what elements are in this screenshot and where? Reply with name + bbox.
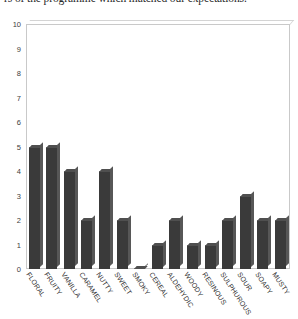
bar-musty xyxy=(275,220,286,269)
y-axis-tick-label: 3 xyxy=(17,191,21,200)
x-axis-tick-label: SOUR xyxy=(236,271,253,292)
caption-text: rs of the programme which matched our ex… xyxy=(4,0,298,4)
bar-vanilla xyxy=(64,171,75,269)
y-axis-tick-label: 4 xyxy=(17,167,21,176)
bar-resinous xyxy=(205,245,216,270)
bar-woody xyxy=(187,245,198,270)
y-axis-tick-label: 7 xyxy=(17,93,21,102)
bar-floral xyxy=(29,147,40,270)
y-axis-tick-label: 1 xyxy=(17,240,21,249)
y-axis-tick-label: 2 xyxy=(17,216,21,225)
y-axis-tick-label: 5 xyxy=(17,142,21,151)
x-axis-tick-label: MUSTY xyxy=(272,271,292,296)
bar-sour xyxy=(240,196,251,270)
x-axis-tick-label: NUTTY xyxy=(96,271,115,295)
bar-sulphurous xyxy=(222,220,233,269)
y-axis-tick-label: 6 xyxy=(17,118,21,127)
y-axis-tick-label: 8 xyxy=(17,69,21,78)
y-axis-tick-label: 9 xyxy=(17,44,21,53)
y-axis: 012345678910 xyxy=(0,11,26,281)
bar-smoky xyxy=(134,268,145,270)
bar-cereal xyxy=(152,245,163,270)
bar-soapy xyxy=(257,220,268,269)
bar-sweet xyxy=(117,220,128,269)
bars-layer xyxy=(26,24,290,269)
bar-nutty xyxy=(99,171,110,269)
y-axis-tick-label: 10 xyxy=(13,20,21,29)
x-axis: FLORALFRUITYVANILLACARAMELNUTTYSWEETSMOK… xyxy=(26,271,298,319)
caption-strip: rs of the programme which matched our ex… xyxy=(0,0,298,11)
bar-fruity xyxy=(46,147,57,270)
bar-chart: 012345678910 FLORALFRUITYVANILLACARAMELN… xyxy=(0,11,298,314)
bar-caramel xyxy=(81,220,92,269)
y-axis-tick-label: 0 xyxy=(17,265,21,274)
bar-aldehydic xyxy=(169,220,180,269)
x-axis-tick-label: SULPHUROUS xyxy=(219,271,253,316)
